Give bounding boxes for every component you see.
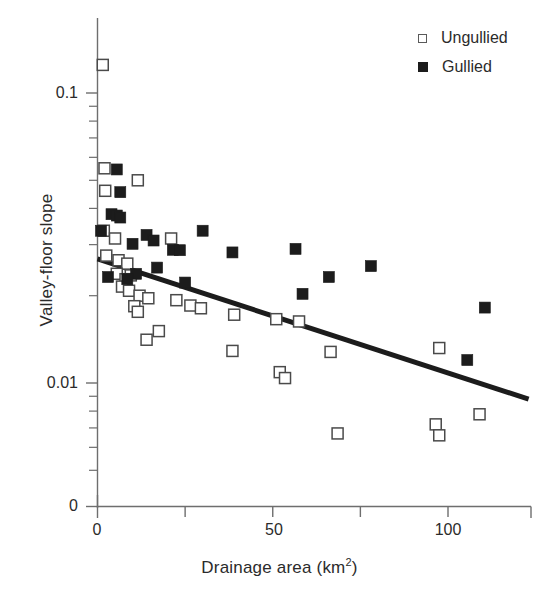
open-square-icon: [418, 34, 427, 43]
legend-item-ungullied: Ungullied: [418, 29, 508, 47]
data-point-ungullied: [229, 309, 240, 320]
data-point-ungullied: [332, 428, 343, 439]
data-point-ungullied: [434, 430, 445, 441]
data-point-gullied: [180, 277, 191, 288]
x-tick-label-100: 100: [428, 521, 468, 539]
data-point-ungullied: [122, 258, 133, 269]
data-point-gullied: [103, 272, 114, 283]
data-point-gullied: [115, 187, 126, 198]
data-point-gullied: [96, 225, 107, 236]
data-point-ungullied: [195, 303, 206, 314]
filled-square-icon: [418, 62, 428, 72]
data-point-ungullied: [99, 163, 110, 174]
data-point-ungullied: [185, 300, 196, 311]
plot-canvas: [0, 0, 559, 597]
data-point-gullied: [227, 247, 238, 258]
y-axis-origin-label: 0: [26, 497, 78, 515]
data-point-ungullied: [294, 316, 305, 327]
scatter-plot-figure: 0.1 0.01 0 0 50 100 Valley-floor slope D…: [0, 0, 559, 597]
data-point-ungullied: [141, 334, 152, 345]
y-tick-label-0.01: 0.01: [26, 374, 78, 392]
x-axis-ticks: [185, 507, 448, 518]
data-point-ungullied: [143, 293, 154, 304]
legend-label-gullied: Gullied: [442, 58, 492, 76]
data-point-ungullied: [227, 345, 238, 356]
data-point-ungullied: [97, 59, 108, 70]
data-point-gullied: [115, 212, 126, 223]
data-point-ungullied: [325, 346, 336, 357]
data-point-ungullied: [132, 306, 143, 317]
data-point-gullied: [148, 235, 159, 246]
data-point-ungullied: [280, 373, 291, 384]
y-tick-label-0.1: 0.1: [26, 84, 78, 102]
data-point-gullied: [174, 245, 185, 256]
legend-label-ungullied: Ungullied: [441, 29, 508, 47]
data-point-ungullied: [430, 419, 441, 430]
data-point-gullied: [152, 262, 163, 273]
data-point-ungullied: [132, 175, 143, 186]
data-point-gullied: [127, 238, 138, 249]
data-point-gullied: [111, 164, 122, 175]
data-point-ungullied: [171, 295, 182, 306]
data-point-ungullied: [474, 409, 485, 420]
data-point-gullied: [290, 243, 301, 254]
data-point-gullied: [479, 302, 490, 313]
data-point-gullied: [323, 272, 334, 283]
data-point-gullied: [122, 274, 133, 285]
data-point-ungullied: [100, 185, 111, 196]
data-point-ungullied: [153, 326, 164, 337]
data-point-ungullied: [124, 285, 135, 296]
data-point-gullied: [197, 225, 208, 236]
x-tick-label-50: 50: [254, 521, 294, 539]
data-point-ungullied: [110, 233, 121, 244]
legend-item-gullied: Gullied: [418, 58, 492, 76]
y-axis-title: Valley-floor slope: [37, 165, 57, 355]
x-tick-label-0: 0: [77, 521, 117, 539]
data-point-ungullied: [271, 314, 282, 325]
x-axis-title: Drainage area (km2): [0, 556, 559, 578]
data-point-gullied: [297, 288, 308, 299]
x-axis-title-main: Drainage area (km: [201, 558, 345, 577]
data-point-ungullied: [166, 233, 177, 244]
data-point-gullied: [365, 261, 376, 272]
data-point-gullied: [462, 355, 473, 366]
x-axis-title-tail: ): [352, 558, 358, 577]
data-point-ungullied: [101, 250, 112, 261]
y-axis-ticks: [86, 93, 98, 518]
data-point-ungullied: [434, 343, 445, 354]
